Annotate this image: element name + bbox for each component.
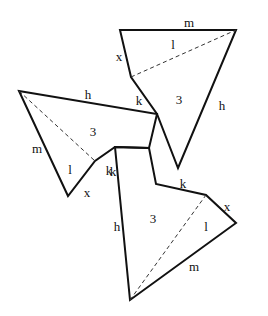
- diagram-svg: mxlk3hh3mlkxkkxh3lm: [0, 0, 268, 316]
- edge-label: k: [136, 93, 143, 108]
- edge-label: 3: [150, 211, 157, 226]
- edge-label: l: [171, 37, 175, 52]
- edge-label: 3: [90, 124, 97, 139]
- edge-label: k: [110, 164, 117, 179]
- edge-label: 3: [176, 92, 183, 107]
- edge-label: h: [114, 219, 121, 234]
- edge-label: m: [189, 259, 199, 274]
- piece-bottom: kkxh3lm: [110, 147, 236, 300]
- piece-outline: [115, 147, 236, 300]
- edge-label: x: [116, 49, 123, 64]
- edge-label: x: [84, 185, 91, 200]
- edge-label: l: [204, 219, 208, 234]
- piece-top: mxlk3h: [116, 15, 236, 169]
- edge-label: h: [85, 87, 92, 102]
- edge-label: m: [184, 15, 194, 30]
- dashed-diagonal: [130, 195, 206, 300]
- edge-label: k: [180, 176, 187, 191]
- dissection-diagram: mxlk3hh3mlkxkkxh3lm: [0, 0, 268, 316]
- edge-label: x: [224, 199, 231, 214]
- edge-label: l: [68, 162, 72, 177]
- edge-label: m: [32, 141, 42, 156]
- edge-label: h: [219, 98, 226, 113]
